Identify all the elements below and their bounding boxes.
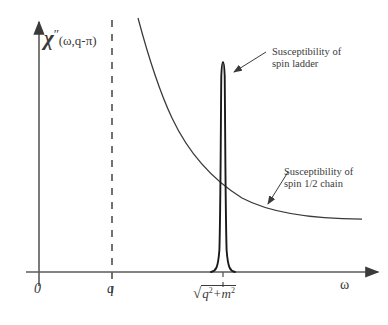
annotation-spin-ladder-line1: Susceptibility of <box>272 46 341 58</box>
y-axis-label: χ″(ω,q-π) <box>44 26 97 50</box>
annotation-spin-ladder-line2: spin ladder <box>272 58 341 70</box>
tick-label-q: q <box>107 281 114 297</box>
tick-label-origin: 0 <box>34 281 41 297</box>
radicand: q2+m2 <box>201 285 236 301</box>
radical-sign: √ <box>193 285 201 301</box>
leader-arrow-spin-ladder <box>234 52 266 72</box>
radicand-plus: + <box>213 286 222 301</box>
chi-symbol: χ <box>44 26 54 50</box>
curve-spin-ladder-peak <box>211 62 235 272</box>
annotation-spin-chain-line1: Susceptibility of <box>284 166 353 178</box>
y-axis-label-args: (ω,q-π) <box>59 33 97 48</box>
tick-label-resonance: √q2+m2 <box>193 285 236 302</box>
annotation-spin-chain: Susceptibility of spin 1/2 chain <box>284 166 353 190</box>
annotation-spin-ladder: Susceptibility of spin ladder <box>272 46 341 70</box>
annotation-spin-chain-line2: spin 1/2 chain <box>284 178 353 190</box>
susceptibility-figure: χ″(ω,q-π) ω 0 q √q2+m2 Susceptibility of… <box>0 0 388 325</box>
radicand-m-exponent: 2 <box>231 286 235 295</box>
radicand-m: m <box>222 286 231 301</box>
x-axis-label: ω <box>340 277 349 293</box>
